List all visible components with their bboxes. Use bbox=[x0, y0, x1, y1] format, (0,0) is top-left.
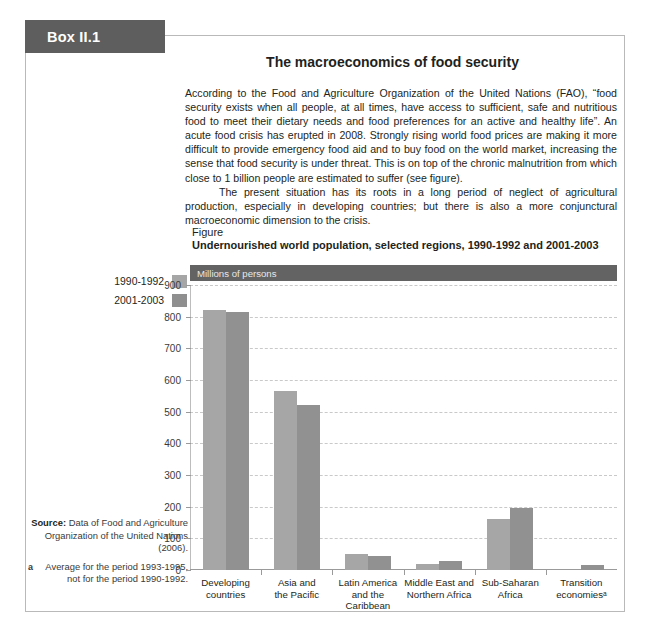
legend-label-1990-1992: 1990-1992 bbox=[114, 276, 164, 287]
y-tick-mark bbox=[186, 380, 191, 381]
box-title: The macroeconomics of food security bbox=[170, 54, 615, 70]
x-category-label: Latin America and the Caribbean bbox=[328, 577, 407, 612]
source-note: Source: Data of Food and Agriculture Org… bbox=[28, 517, 188, 586]
y-tick-mark bbox=[186, 570, 191, 571]
gridline bbox=[190, 348, 617, 349]
x-category-label: Transition economiesᵃ bbox=[542, 577, 621, 600]
bar bbox=[581, 565, 604, 570]
bar bbox=[297, 405, 320, 570]
y-tick-label: 800 bbox=[164, 311, 181, 322]
bar bbox=[510, 508, 533, 570]
gridline bbox=[190, 317, 617, 318]
legend-swatch-2001-2003 bbox=[172, 294, 187, 307]
y-tick-mark bbox=[186, 475, 191, 476]
gridline bbox=[190, 538, 617, 539]
x-category-label: Asia and the Pacific bbox=[257, 577, 336, 600]
x-category-label: Developing countries bbox=[186, 577, 265, 600]
y-tick-label: 0 bbox=[175, 565, 181, 576]
y-tick-mark bbox=[186, 443, 191, 444]
footnote-text: Average for the period 1993-1995, not fo… bbox=[45, 561, 188, 585]
paragraph-1: According to the Food and Agriculture Or… bbox=[185, 86, 617, 185]
gridline bbox=[190, 380, 617, 381]
x-tick-mark bbox=[404, 570, 405, 575]
box-body-text: According to the Food and Agriculture Or… bbox=[185, 86, 617, 227]
y-tick-mark bbox=[186, 285, 191, 286]
paragraph-2: The present situation has its roots in a… bbox=[185, 185, 617, 227]
footnote-marker: a bbox=[28, 561, 33, 574]
x-category-label: Sub-Saharan Africa bbox=[471, 577, 550, 600]
gridline bbox=[190, 412, 617, 413]
box-number-tab: Box II.1 bbox=[25, 20, 165, 53]
bar bbox=[416, 564, 439, 570]
gridline bbox=[190, 443, 617, 444]
source-label: Source: bbox=[31, 517, 66, 528]
bar bbox=[226, 312, 249, 570]
y-tick-label: 500 bbox=[164, 406, 181, 417]
bar bbox=[345, 554, 368, 570]
y-tick-label: 300 bbox=[164, 470, 181, 481]
y-tick-label: 200 bbox=[164, 501, 181, 512]
y-tick-label: 700 bbox=[164, 343, 181, 354]
y-tick-label: 600 bbox=[164, 375, 181, 386]
x-tick-mark bbox=[332, 570, 333, 575]
y-tick-mark bbox=[186, 317, 191, 318]
y-axis-line bbox=[190, 285, 191, 570]
y-tick-mark bbox=[186, 507, 191, 508]
y-tick-label: 100 bbox=[164, 533, 181, 544]
y-tick-mark bbox=[186, 412, 191, 413]
x-tick-mark bbox=[261, 570, 262, 575]
figure-title: Undernourished world population, selecte… bbox=[192, 239, 599, 251]
figure-label: Figure bbox=[192, 226, 223, 238]
x-tick-mark bbox=[546, 570, 547, 575]
chart-unit-banner: Millions of persons bbox=[190, 265, 617, 281]
x-category-label: Middle East and Northern Africa bbox=[400, 577, 479, 600]
bar bbox=[274, 391, 297, 570]
bar bbox=[487, 519, 510, 570]
y-tick-mark bbox=[186, 348, 191, 349]
bar bbox=[368, 556, 391, 570]
gridline bbox=[190, 507, 617, 508]
legend-item-2001-2003: 2001-2003 bbox=[62, 291, 187, 310]
bar bbox=[203, 310, 226, 570]
bar bbox=[439, 561, 462, 570]
x-tick-mark bbox=[475, 570, 476, 575]
y-tick-mark bbox=[186, 538, 191, 539]
chart-plot-area: 0100200300400500600700800900Developing c… bbox=[190, 285, 617, 570]
footnote: a Average for the period 1993-1995, not … bbox=[28, 561, 188, 586]
y-tick-label: 900 bbox=[164, 280, 181, 291]
page-root: Box II.1 The macroeconomics of food secu… bbox=[0, 0, 649, 627]
gridline bbox=[190, 475, 617, 476]
legend-label-2001-2003: 2001-2003 bbox=[114, 295, 164, 306]
chart-legend: 1990-1992 2001-2003 bbox=[62, 272, 187, 310]
y-tick-label: 400 bbox=[164, 438, 181, 449]
gridline bbox=[190, 285, 617, 286]
